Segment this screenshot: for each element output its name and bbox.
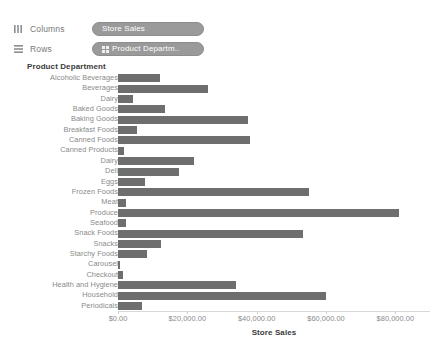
chart-row: Checkout <box>0 270 437 281</box>
row-label: Snacks <box>93 239 118 250</box>
bar-mark[interactable] <box>118 168 179 176</box>
chart-row: Carousel <box>0 259 437 270</box>
bar-mark[interactable] <box>118 219 126 227</box>
chart-row: Periodicals <box>0 301 437 312</box>
chart-row: Starchy Foods <box>0 249 437 260</box>
rows-pill-product-department[interactable]: Product Departm.. <box>92 42 204 56</box>
bar-mark[interactable] <box>118 136 250 144</box>
chart-row: Health and Hygiene <box>0 280 437 291</box>
x-axis-tick-label: $60,000.00 <box>307 314 345 323</box>
bar-mark[interactable] <box>118 250 147 258</box>
bar-chart: Product Department Alcoholic BeveragesBe… <box>0 58 437 350</box>
chart-row: Dairy <box>0 94 437 105</box>
columns-shelf-icon <box>14 24 25 34</box>
chart-row: Canned Products <box>0 145 437 156</box>
tableau-worksheet: Columns Store Sales Rows <box>0 0 437 350</box>
bar-mark[interactable] <box>118 209 399 217</box>
rows-shelf[interactable]: Rows Product Departm.. <box>14 40 204 58</box>
chart-row: Breakfast Foods <box>0 125 437 136</box>
row-label: Health and Hygiene <box>52 280 118 291</box>
row-label: Household <box>82 290 118 301</box>
chart-row: Eggs <box>0 177 437 188</box>
row-label: Baking Goods <box>71 114 118 125</box>
shelf-area: Columns Store Sales Rows <box>0 0 437 58</box>
row-label: Alcoholic Beverages <box>50 73 118 84</box>
row-label: Meat <box>101 197 118 208</box>
row-label: Checkout <box>86 270 118 281</box>
x-axis: $0.00$20,000.00$40,000.00$60,000.00$80,0… <box>0 311 437 350</box>
row-header-title: Product Department <box>0 62 114 71</box>
rows-shelf-label: Rows <box>30 44 80 54</box>
columns-shelf[interactable]: Columns Store Sales <box>14 20 204 38</box>
row-label: Snack Foods <box>74 228 118 239</box>
x-axis-line <box>118 311 430 312</box>
rows-pill-label: Product Departm.. <box>112 45 179 53</box>
x-axis-tick-label: $80,000.00 <box>377 314 415 323</box>
bar-mark[interactable] <box>118 230 303 238</box>
row-label: Canned Foods <box>69 135 118 146</box>
chart-row: Deli <box>0 166 437 177</box>
row-label: Dairy <box>101 156 119 167</box>
row-label: Starchy Foods <box>70 249 118 260</box>
bar-mark[interactable] <box>118 240 161 248</box>
chart-row: Dairy <box>0 156 437 167</box>
bar-mark[interactable] <box>118 292 326 300</box>
bar-mark[interactable] <box>118 271 123 279</box>
chart-row: Snack Foods <box>0 228 437 239</box>
dimension-grid-icon <box>102 46 109 53</box>
chart-row: Beverages <box>0 83 437 94</box>
bar-mark[interactable] <box>118 302 142 310</box>
chart-row: Baked Goods <box>0 104 437 115</box>
chart-row: Snacks <box>0 239 437 250</box>
chart-row: Household <box>0 290 437 301</box>
bar-mark[interactable] <box>118 178 145 186</box>
x-axis-tick-label: $20,000.00 <box>169 314 207 323</box>
bar-mark[interactable] <box>118 85 208 93</box>
bar-mark[interactable] <box>118 126 137 134</box>
chart-row: Produce <box>0 208 437 219</box>
chart-row: Canned Foods <box>0 135 437 146</box>
columns-pill-label: Store Sales <box>102 25 145 33</box>
row-label: Eggs <box>101 177 118 188</box>
bar-mark[interactable] <box>118 261 120 269</box>
row-label: Breakfast Foods <box>63 125 118 136</box>
bar-mark[interactable] <box>118 147 124 155</box>
plot-area: Alcoholic BeveragesBeveragesDairyBaked G… <box>0 73 437 311</box>
row-label: Deli <box>105 166 118 177</box>
rows-shelf-icon <box>14 44 25 54</box>
columns-pill-store-sales[interactable]: Store Sales <box>92 22 204 36</box>
bar-mark[interactable] <box>118 281 236 289</box>
row-label: Frozen Foods <box>72 187 118 198</box>
bar-mark[interactable] <box>118 199 126 207</box>
bar-mark[interactable] <box>118 95 133 103</box>
bar-mark[interactable] <box>118 105 165 113</box>
row-label: Beverages <box>82 83 118 94</box>
chart-row: Baking Goods <box>0 114 437 125</box>
x-axis-title: Store Sales <box>118 328 430 337</box>
chart-row: Frozen Foods <box>0 187 437 198</box>
row-label: Seafood <box>90 218 118 229</box>
chart-row: Alcoholic Beverages <box>0 73 437 84</box>
chart-row: Meat <box>0 197 437 208</box>
chart-row: Seafood <box>0 218 437 229</box>
bar-mark[interactable] <box>118 74 160 82</box>
bar-mark[interactable] <box>118 157 194 165</box>
x-axis-tick-label: $0.00 <box>109 314 128 323</box>
row-label: Baked Goods <box>73 104 118 115</box>
bar-mark[interactable] <box>118 188 309 196</box>
row-label: Dairy <box>101 94 119 105</box>
row-label: Periodicals <box>81 301 118 312</box>
columns-shelf-label: Columns <box>30 24 80 34</box>
row-label: Canned Products <box>60 145 118 156</box>
row-label: Produce <box>90 208 118 219</box>
row-label: Carousel <box>88 259 118 270</box>
x-axis-tick-label: $40,000.00 <box>238 314 276 323</box>
bar-mark[interactable] <box>118 116 248 124</box>
